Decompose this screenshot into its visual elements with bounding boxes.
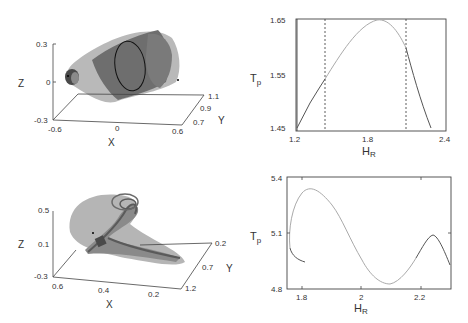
tr-x-label: HR (362, 145, 376, 159)
tr-yt1: 1.55 (270, 71, 286, 80)
tl-zt2: 0.3 (36, 40, 48, 49)
tl-y-label: Y (218, 115, 225, 126)
tl-xt2: 0.6 (172, 127, 184, 136)
chart-top-right: 1.65 1.55 1.45 Tp 1.2 1.8 2.4 HR (234, 0, 468, 160)
tr-xt0: 1.2 (289, 135, 301, 144)
curve-dark-left (290, 248, 305, 262)
bl-xt1: 0.4 (98, 286, 110, 295)
bl-xt0: 0.6 (52, 282, 64, 291)
tr-y-label: Tp (250, 72, 262, 87)
bl-z-label: Z (18, 239, 24, 250)
tr-xt2: 2.4 (439, 135, 451, 144)
bl-x-label: X (106, 299, 113, 310)
panel-3d-top-left: 0.3 0 -0.3 Z -0.6 0 0.6 X 1.1 0.9 0.7 Y (0, 0, 234, 160)
curve-stable-left (297, 79, 325, 128)
curve-stable-right (406, 48, 431, 128)
chart-bottom-right: 5.4 5.1 4.8 Tp 1.8 2 2.2 HR (234, 160, 468, 323)
bl-zt2: 0.5 (38, 206, 50, 215)
tl-x-label: X (108, 137, 115, 148)
br-xt0: 1.8 (296, 293, 308, 302)
surface-spiral (70, 194, 185, 265)
surface-tube (65, 30, 179, 102)
br-xt2: 2.2 (414, 293, 426, 302)
tl-zt1: 0 (46, 78, 51, 87)
br-yt0: 4.8 (271, 285, 283, 294)
plot-frame (287, 177, 451, 289)
curve-light (290, 189, 417, 284)
br-yt2: 5.4 (271, 174, 283, 183)
tr-yt2: 1.65 (270, 16, 286, 25)
tl-yt2: 1.1 (208, 92, 220, 101)
tl-yt0: 0.7 (193, 118, 205, 127)
plot-frame (296, 19, 446, 131)
tl-z-label: Z (18, 78, 24, 89)
tl-xt0: -0.6 (48, 125, 62, 134)
tr-yt0: 1.45 (270, 124, 286, 133)
tl-yt1: 0.9 (200, 104, 212, 113)
tr-xt1: 1.8 (362, 135, 374, 144)
br-yt1: 5.1 (271, 229, 283, 238)
bl-zt1: 0.1 (38, 240, 50, 249)
bl-yt0: 1.2 (185, 284, 197, 293)
curve-unstable (325, 20, 406, 79)
curve-dark-right (416, 235, 450, 265)
br-x-label: HR (354, 302, 368, 316)
panel-3d-bottom-left: 0.5 0.1 -0.3 Z 0.6 0.4 0.2 X 0.2 0.7 1.2… (0, 160, 234, 323)
br-xt1: 2 (359, 293, 364, 302)
bl-y-label: Y (226, 263, 233, 274)
tl-zt0: -0.3 (34, 116, 48, 125)
bl-yt2: 0.2 (215, 239, 227, 248)
bl-xt2: 0.2 (148, 290, 160, 299)
bl-zt0: -0.3 (34, 272, 48, 281)
tl-xt1: 0 (115, 124, 120, 133)
bl-yt1: 0.7 (202, 263, 214, 272)
br-y-label: Tp (250, 230, 262, 245)
